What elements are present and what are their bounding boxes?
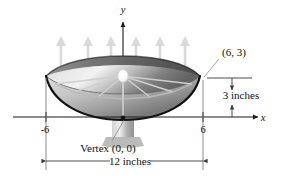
depth-dimension-label: 3 inches: [223, 89, 259, 101]
vertex-point: [121, 116, 126, 121]
figure-container: x y -6 6 (6, 3) Vertex (0, 0) 3 inches 1…: [0, 0, 281, 181]
x-axis-label: x: [260, 112, 266, 123]
y-axis-label: y: [120, 4, 126, 15]
focus-point: [118, 70, 128, 83]
x-tick-label-6: 6: [200, 124, 205, 135]
width-dimension-label: 12 inches: [109, 155, 151, 167]
x-tick-label-minus6: -6: [41, 124, 50, 135]
parabolic-dish-diagram: x y -6 6 (6, 3) Vertex (0, 0) 3 inches 1…: [0, 0, 281, 181]
vertex-label: Vertex (0, 0): [80, 142, 136, 155]
point-label-6-3: (6, 3): [222, 46, 246, 59]
